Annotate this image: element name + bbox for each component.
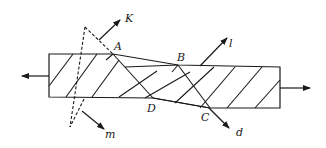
arrow-l-icon: [200, 38, 227, 66]
label-m: m: [105, 128, 115, 141]
label-k: K: [124, 12, 134, 25]
label-a: A: [113, 40, 122, 53]
label-c: C: [201, 111, 210, 124]
label-d-point: D: [146, 102, 156, 115]
label-l: l: [229, 37, 233, 50]
arrow-d-icon: [209, 108, 229, 128]
arrow-m-icon: [82, 111, 104, 129]
arrow-k-icon: [99, 20, 120, 40]
label-b: B: [176, 51, 185, 64]
label-d-dir: d: [236, 126, 243, 139]
diagram-canvas: K A B l D C m d: [0, 0, 326, 148]
right-hatching: [200, 67, 280, 108]
left-hatching: [49, 54, 157, 97]
